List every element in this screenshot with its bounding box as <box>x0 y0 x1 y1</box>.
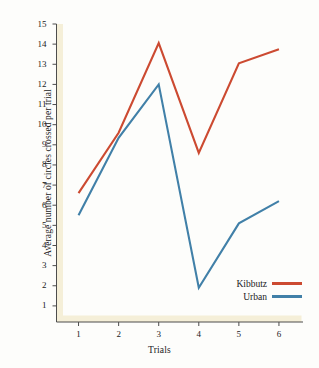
y-axis-ticks <box>53 24 57 306</box>
series-line-kibbutz <box>79 43 279 193</box>
legend-label: Kibbutz <box>236 279 272 289</box>
x-tick-label: 3 <box>150 330 168 339</box>
legend-item-kibbutz: Kibbutz <box>198 277 302 290</box>
legend-swatch <box>272 282 302 285</box>
legend-label: Urban <box>243 292 272 302</box>
legend-swatch <box>272 295 302 298</box>
x-tick-label: 4 <box>190 330 208 339</box>
chart-legend: KibbutzUrban <box>198 277 302 303</box>
x-axis-title: Trials <box>0 345 319 355</box>
y-axis-title: Average number of circles crossed per tr… <box>43 48 53 298</box>
chart-figure: 123456789101112131415 123456 Average num… <box>0 0 319 368</box>
x-tick-label: 1 <box>70 330 88 339</box>
chart-plot-area: 123456789101112131415 123456 Average num… <box>0 0 319 368</box>
x-tick-label: 5 <box>230 330 248 339</box>
series-line-urban <box>79 84 279 287</box>
x-axis-band <box>57 316 302 323</box>
x-tick-label: 2 <box>110 330 128 339</box>
data-series-group <box>79 43 279 288</box>
y-tick-label: 15 <box>29 20 47 29</box>
x-tick-label: 6 <box>270 330 288 339</box>
y-tick-label: 1 <box>29 301 47 310</box>
y-axis-band <box>57 24 64 322</box>
x-axis-ticks <box>79 322 279 326</box>
legend-item-urban: Urban <box>198 290 302 303</box>
